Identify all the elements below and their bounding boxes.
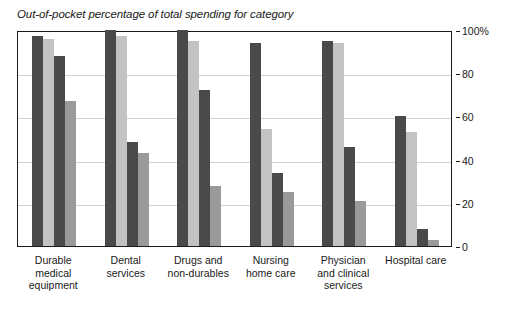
- bar: [177, 30, 188, 246]
- category-label-line: Hospital care: [372, 254, 461, 267]
- y-tick-mark: [456, 161, 460, 162]
- bar: [272, 173, 283, 246]
- y-tick-mark: [456, 247, 460, 248]
- bar: [32, 36, 43, 246]
- category-label-line: equipment: [9, 279, 98, 292]
- bar: [54, 56, 65, 246]
- bar: [138, 153, 149, 246]
- category-axis-labels: DurablemedicalequipmentDentalservicesDru…: [17, 250, 452, 308]
- bar: [428, 240, 439, 246]
- bar-group: [18, 32, 91, 246]
- bar: [127, 142, 138, 246]
- y-tick-label: 60: [462, 111, 474, 123]
- bar: [210, 186, 221, 246]
- bar: [43, 39, 54, 246]
- bar: [344, 147, 355, 246]
- y-tick-mark: [456, 204, 460, 205]
- bar-group: [381, 32, 454, 246]
- bar-group: [308, 32, 381, 246]
- y-tick-label: 0: [462, 241, 468, 253]
- y-tick-label: 20: [462, 198, 474, 210]
- bar: [417, 229, 428, 246]
- bar: [261, 129, 272, 246]
- bar: [355, 201, 366, 246]
- y-tick-mark: [456, 31, 460, 32]
- bar: [395, 116, 406, 246]
- bar: [65, 101, 76, 246]
- bar: [199, 90, 210, 246]
- chart-title: Out-of-pocket percentage of total spendi…: [17, 8, 293, 20]
- bar: [283, 192, 294, 246]
- y-tick-label: 40: [462, 155, 474, 167]
- y-tick-label: 100%: [462, 25, 489, 37]
- y-tick-mark: [456, 74, 460, 75]
- bar: [333, 43, 344, 246]
- bar: [188, 41, 199, 246]
- bar-group: [163, 32, 236, 246]
- bar: [105, 30, 116, 246]
- y-tick-label: 80: [462, 68, 474, 80]
- chart-container: Out-of-pocket percentage of total spendi…: [0, 0, 532, 309]
- bar: [406, 132, 417, 246]
- y-tick-mark: [456, 117, 460, 118]
- bars-layer: [18, 32, 451, 246]
- bar: [322, 41, 333, 246]
- category-label-line: and clinical: [299, 267, 388, 280]
- plot-area: [17, 31, 452, 247]
- bar: [250, 43, 261, 246]
- bar-group: [236, 32, 309, 246]
- category-label-line: services: [299, 279, 388, 292]
- category-label: Hospital care: [372, 254, 461, 267]
- bar: [116, 36, 127, 246]
- bar-group: [91, 32, 164, 246]
- y-axis: 020406080100%: [456, 31, 526, 247]
